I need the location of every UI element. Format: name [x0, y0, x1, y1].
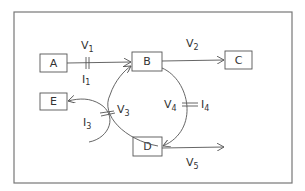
edge-b-c: V2	[162, 37, 224, 61]
node-a: A	[40, 54, 67, 72]
node-c: C	[225, 51, 252, 69]
edge-b-d: V4 I4	[162, 68, 209, 146]
label-i1: I1	[82, 73, 90, 87]
node-c-label: C	[235, 54, 243, 67]
node-a-label: A	[50, 57, 58, 70]
label-v1: V1	[81, 39, 94, 54]
node-d-label: D	[143, 140, 151, 153]
label-v2: V2	[186, 37, 199, 52]
node-e: E	[40, 93, 67, 110]
edge-d-out: V5	[162, 147, 224, 171]
network-diagram: A B C E D V1 I1 V2 V4 I4	[0, 0, 305, 191]
node-e-label: E	[50, 95, 57, 108]
label-v4: V4	[164, 98, 177, 113]
edge-to-e: V3 I3	[68, 99, 130, 142]
label-i4: I4	[201, 98, 209, 113]
label-i3: I3	[83, 116, 91, 131]
label-v5: V5	[186, 156, 199, 171]
label-v3: V3	[117, 103, 130, 118]
node-b-label: B	[143, 55, 151, 68]
edge-a-b: V1 I1	[67, 39, 131, 87]
edge-d-b-loop	[108, 66, 158, 146]
node-b: B	[132, 52, 162, 71]
